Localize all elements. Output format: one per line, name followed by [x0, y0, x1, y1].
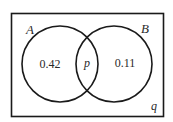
a-only-value: 0.42	[40, 57, 61, 71]
set-a-label: A	[25, 22, 34, 37]
b-only-value: 0.11	[115, 56, 136, 70]
intersection-value: p	[83, 56, 90, 70]
set-b-label: B	[141, 21, 149, 36]
venn-diagram: A B 0.42 p 0.11 q	[0, 0, 173, 122]
outside-value: q	[151, 99, 157, 113]
